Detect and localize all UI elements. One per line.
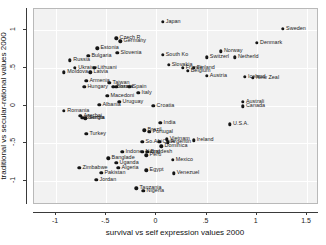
data-point-label: Jordan <box>99 177 116 182</box>
data-point <box>228 123 231 126</box>
data-point <box>186 69 189 72</box>
data-point-label: Uruguay <box>123 99 144 104</box>
data-point <box>119 40 122 43</box>
data-point-label: Italy <box>142 90 152 95</box>
data-point <box>121 150 124 153</box>
data-point <box>172 172 175 175</box>
data-point-label: Sweden <box>286 26 306 31</box>
data-point-label: Venezuel <box>177 171 200 176</box>
data-point <box>243 75 246 78</box>
gridline-vertical-5 <box>307 9 308 203</box>
x-tick-label-1: -.5 <box>101 217 109 224</box>
data-point <box>62 71 65 74</box>
data-point-label: Belgium <box>191 68 211 73</box>
y-tick-label-3: -.5 <box>9 138 16 146</box>
data-point-label: Slovenia <box>121 50 142 55</box>
data-point-label: Peru <box>150 152 162 157</box>
x-tick-label-0: -1 <box>52 217 58 224</box>
data-point-label: Mexico <box>176 157 193 162</box>
data-point <box>141 150 144 153</box>
data-point-label: Moldova <box>67 70 88 75</box>
data-point <box>143 129 146 132</box>
x-tick-mark-5 <box>306 212 307 215</box>
y-tick-mark-2 <box>23 105 26 106</box>
data-point-label: Egypt <box>150 168 164 173</box>
data-point <box>107 157 110 160</box>
data-point <box>99 171 102 174</box>
y-tick-label-0: 1 <box>9 27 16 31</box>
data-point <box>145 153 148 156</box>
gridline-vertical-0 <box>56 9 57 203</box>
x-tick-label-2: 0 <box>153 217 157 224</box>
x-tick-label-4: 1 <box>254 217 258 224</box>
data-point <box>137 91 140 94</box>
data-point <box>106 94 109 97</box>
data-point <box>115 37 118 40</box>
data-point <box>152 104 155 107</box>
gridline-horizontal-0 <box>34 30 317 31</box>
data-point-label: South Ko <box>166 52 189 57</box>
data-point <box>171 158 174 161</box>
y-axis-title: traditional vs secular-rational values 2… <box>0 32 8 179</box>
data-point <box>84 79 87 82</box>
data-point-label: Croatia <box>157 103 175 108</box>
data-point <box>68 59 71 62</box>
data-point <box>219 49 222 52</box>
data-point-label: Canada <box>246 103 265 108</box>
data-point-label: Turkey <box>89 131 106 136</box>
data-point <box>77 166 80 169</box>
data-point <box>115 161 118 164</box>
x-axis-line <box>33 212 318 213</box>
scatter-plot-figure: JapanSwedenCzech R.GermanyDenmarkEstonia… <box>0 0 326 245</box>
y-tick-mark-4 <box>23 180 26 181</box>
plot-panel: JapanSwedenCzech R.GermanyDenmarkEstonia… <box>33 8 318 204</box>
y-tick-label-4: -1 <box>9 177 16 183</box>
data-point <box>82 85 85 88</box>
y-tick-mark-1 <box>23 67 26 68</box>
data-point <box>135 187 138 190</box>
data-point <box>88 71 91 74</box>
y-tick-label-2: 0 <box>9 103 16 107</box>
x-axis-title: survival vs self expression values 2000 <box>106 228 244 237</box>
data-point <box>84 132 87 135</box>
gridline-horizontal-4 <box>34 181 317 182</box>
x-tick-mark-2 <box>155 212 156 215</box>
y-tick-label-1: .5 <box>9 64 16 70</box>
data-point-label: Russia <box>73 58 90 63</box>
data-point <box>116 51 119 54</box>
data-point-label: Austria <box>210 73 227 78</box>
x-tick-mark-1 <box>105 212 106 215</box>
data-point <box>62 109 65 112</box>
x-tick-label-3: .5 <box>203 217 209 224</box>
data-point <box>167 63 170 66</box>
data-point <box>181 66 184 69</box>
data-point <box>233 55 236 58</box>
data-point-label: Japan <box>166 19 181 24</box>
data-point-label: Serbia <box>88 116 104 121</box>
data-point-label: Denmark <box>260 40 282 45</box>
data-point <box>241 104 244 107</box>
data-point-label: India <box>164 120 176 125</box>
data-point <box>161 53 164 56</box>
data-point-label: Latvia <box>93 70 108 75</box>
data-point-label: Bulgaria <box>91 53 111 58</box>
data-point <box>241 100 244 103</box>
x-tick-mark-0 <box>55 212 56 215</box>
data-point-label: Germany <box>124 39 147 44</box>
x-tick-mark-4 <box>256 212 257 215</box>
data-point-label: Netherld <box>238 54 259 59</box>
y-tick-mark-3 <box>23 142 26 143</box>
data-point <box>205 55 208 58</box>
data-point <box>142 189 145 192</box>
data-point-label: Nigeria <box>147 188 164 193</box>
data-point-label: U.S.A. <box>233 122 249 127</box>
data-point-label: Switzerl <box>210 54 229 59</box>
y-tick-mark-0 <box>23 29 26 30</box>
gridline-vertical-3 <box>207 9 208 203</box>
data-point <box>192 138 195 141</box>
data-point-label: Ireland <box>197 137 214 142</box>
data-point <box>95 46 98 49</box>
data-point <box>161 20 164 23</box>
data-point <box>205 74 208 77</box>
x-tick-label-5: 1.5 <box>301 217 311 224</box>
